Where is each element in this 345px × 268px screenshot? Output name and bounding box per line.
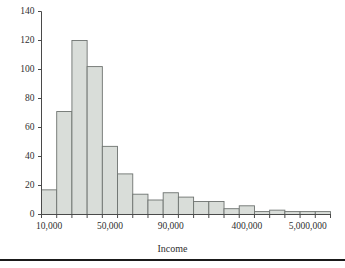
x-axis-tick-label: 5,000,000 xyxy=(263,221,345,231)
y-axis-tick-label: 140 xyxy=(0,6,35,16)
y-axis-tick-label: 80 xyxy=(0,93,35,103)
histogram-bar xyxy=(239,206,254,215)
bars-group xyxy=(42,41,331,215)
histogram-bar xyxy=(194,201,209,214)
histogram-bar xyxy=(178,197,193,214)
y-axis-tick-label: 40 xyxy=(0,151,35,161)
histogram-bar xyxy=(102,146,117,214)
histogram-bar xyxy=(57,112,72,215)
x-axis-title: Income xyxy=(0,243,345,254)
histogram-figure: 020406080100120140 10,00050,00090,000400… xyxy=(0,0,345,268)
y-axis-tick-label: 20 xyxy=(0,180,35,190)
y-axis-tick-label: 60 xyxy=(0,122,35,132)
histogram-bar xyxy=(87,67,102,215)
y-axis-tick-label: 0 xyxy=(0,209,35,219)
y-axis-tick-label: 100 xyxy=(0,64,35,74)
histogram-bar xyxy=(42,190,57,215)
histogram-bar xyxy=(224,209,239,215)
histogram-bar xyxy=(148,200,163,215)
histogram-bar xyxy=(118,174,133,215)
histogram-bar xyxy=(209,201,224,214)
y-axis-tick-label: 120 xyxy=(0,35,35,45)
histogram-bar xyxy=(133,194,148,214)
histogram-bar xyxy=(72,41,87,215)
bottom-divider-rule xyxy=(0,259,345,261)
histogram-bar xyxy=(163,193,178,215)
histogram-bar xyxy=(270,210,285,214)
